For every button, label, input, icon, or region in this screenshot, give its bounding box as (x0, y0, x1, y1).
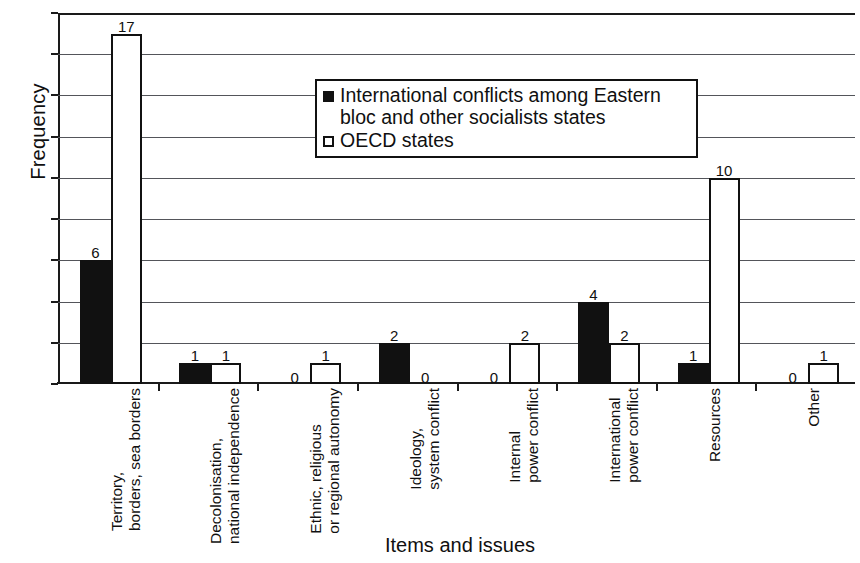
bar-value-label: 2 (620, 328, 628, 343)
bar-value-label: 0 (290, 370, 298, 385)
y-axis-title: Frequency (27, 42, 50, 222)
bar-group: 11 (158, 13, 258, 384)
bar-series-1[interactable]: 6 (80, 260, 111, 384)
x-category-label-line: Decolonisation, (207, 388, 225, 544)
bar-group: 617 (58, 13, 158, 384)
legend-label-series-2: OECD states (340, 130, 454, 152)
x-category-label: Ideology,system conflict (357, 388, 457, 518)
y-tick-mark (51, 177, 58, 179)
x-category-label: Decolonisation,national independence (158, 388, 258, 518)
bar-value-label: 2 (521, 328, 529, 343)
bar-value-label: 1 (222, 348, 230, 363)
bar-series-2[interactable]: 10 (709, 178, 740, 384)
legend-swatch-filled-icon (323, 91, 334, 102)
bar-value-label: 0 (789, 370, 797, 385)
x-category-label-line: power conflict (624, 388, 642, 483)
bar-group: 01 (257, 13, 357, 384)
x-category-label-line: International (606, 388, 624, 483)
x-category-label: Other (755, 388, 855, 518)
y-tick-mark (51, 136, 58, 138)
x-axis-title: Items and issues (0, 534, 860, 557)
bar-value-label: 0 (421, 370, 429, 385)
x-axis-category-labels: Territory,borders, sea bordersDecolonisa… (58, 388, 855, 518)
x-category-label: Resources (656, 388, 756, 518)
bar-series-1[interactable]: 4 (578, 302, 609, 384)
y-tick-mark (51, 218, 58, 220)
y-tick-mark (51, 12, 58, 14)
x-category-label-line: system conflict (425, 388, 443, 490)
bar-value-label: 4 (589, 287, 597, 302)
bar-value-label: 1 (689, 348, 697, 363)
bar-value-label: 10 (716, 163, 733, 178)
y-tick-mark (51, 383, 58, 385)
bar-group: 02 (457, 13, 557, 384)
y-tick-mark (51, 53, 58, 55)
x-category-label-line: Territory, (108, 388, 126, 531)
x-category-label-line: Other (805, 388, 823, 427)
bar-value-label: 6 (91, 245, 99, 260)
bar-series-2[interactable]: 17 (111, 34, 142, 384)
x-category-label-line: borders, sea borders (126, 388, 144, 531)
legend-swatch-outlined-icon (323, 136, 334, 147)
bar-value-label: 0 (490, 370, 498, 385)
x-category-label: Territory,borders, sea borders (58, 388, 158, 518)
bar-series-1[interactable]: 1 (678, 363, 709, 384)
bar-series-1[interactable]: 1 (179, 363, 210, 384)
bar-value-label: 17 (118, 19, 135, 34)
y-tick-mark (51, 301, 58, 303)
x-category-label-line: national independence (226, 388, 244, 544)
bar-group: 110 (656, 13, 756, 384)
bar-value-label: 1 (191, 348, 199, 363)
y-tick-mark (51, 94, 58, 96)
x-category-label-line: Ideology, (407, 388, 425, 490)
bar-series-2[interactable]: 1 (210, 363, 241, 384)
bar-series-1[interactable]: 2 (379, 343, 410, 384)
y-tick-mark (51, 259, 58, 261)
bar-value-label: 1 (820, 348, 828, 363)
x-category-label: Internalpower conflict (457, 388, 557, 518)
x-category-label-line: Internal (506, 388, 524, 483)
bar-value-label: 1 (321, 348, 329, 363)
x-category-label-line: or regional autonomy (325, 388, 343, 534)
legend-item-series-1: International conflicts among Easternblo… (323, 85, 690, 129)
chart-legend: International conflicts among Easternblo… (315, 79, 698, 158)
bar-chart: Frequency 024681012141618 61711012002421… (0, 0, 860, 563)
plot-area: 024681012141618 617110120024211001 (58, 13, 855, 384)
bar-groups: 617110120024211001 (58, 13, 855, 384)
x-category-label: Ethnic, religiousor regional autonomy (257, 388, 357, 518)
x-category-label-line: Ethnic, religious (307, 388, 325, 534)
legend-label-series-1: International conflicts among Easternblo… (340, 85, 661, 129)
x-category-label-line: power conflict (525, 388, 543, 483)
x-category-label-line: Resources (706, 388, 724, 462)
y-tick-mark (51, 342, 58, 344)
bar-value-label: 2 (390, 328, 398, 343)
bar-group: 01 (755, 13, 855, 384)
bar-group: 42 (556, 13, 656, 384)
bar-series-2[interactable]: 2 (609, 343, 640, 384)
bar-group: 20 (357, 13, 457, 384)
x-category-label: Internationalpower conflict (556, 388, 656, 518)
bar-series-2[interactable]: 1 (310, 363, 341, 384)
bar-series-2[interactable]: 1 (808, 363, 839, 384)
legend-item-series-2: OECD states (323, 130, 690, 152)
bar-series-2[interactable]: 2 (509, 343, 540, 384)
